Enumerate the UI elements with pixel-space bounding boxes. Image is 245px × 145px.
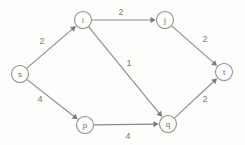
edge-weight-p-q: 4 [125, 131, 130, 141]
graph-edge-q-t [175, 78, 218, 118]
edge-weight-i-j: 2 [118, 7, 123, 17]
graph-svg: sijtpq 2421242 [0, 0, 245, 145]
graph-edge-j-t [172, 26, 217, 66]
graph-node-t[interactable]: t [216, 64, 233, 81]
graph-edge-s-p [27, 80, 78, 120]
edge-weight-j-t: 2 [202, 34, 207, 44]
arrowhead-icon [72, 114, 78, 120]
node-label-s: s [18, 70, 22, 79]
edge-weight-q-t: 2 [202, 94, 207, 104]
graph-node-j[interactable]: j [157, 12, 174, 29]
node-label-p: p [83, 121, 88, 130]
arrowhead-icon [151, 17, 156, 23]
nodes-layer: sijtpq [12, 12, 233, 134]
graph-edge-i-j [92, 17, 156, 23]
graph-node-p[interactable]: p [77, 117, 94, 134]
graph-edge-s-i [27, 26, 76, 68]
graph-node-s[interactable]: s [12, 66, 29, 83]
graph-edge-p-q [94, 121, 159, 127]
graph-edge-i-q [89, 27, 162, 117]
node-label-i: i [82, 16, 84, 25]
node-label-q: q [166, 120, 170, 129]
node-label-j: j [163, 16, 166, 25]
arrowhead-icon [153, 121, 158, 127]
edge-weight-s-p: 4 [37, 94, 42, 104]
weights-layer: 2421242 [37, 7, 207, 141]
graph-node-q[interactable]: q [160, 116, 177, 133]
graph-node-i[interactable]: i [75, 12, 92, 29]
graph-diagram-canvas: sijtpq 2421242 [0, 0, 245, 145]
edge-weight-i-q: 1 [126, 58, 131, 68]
edge-weight-s-i: 2 [39, 36, 44, 46]
edges-layer [27, 17, 217, 127]
